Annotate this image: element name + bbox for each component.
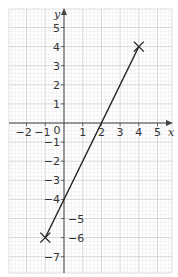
coordinate-graph: −2−11234554321−1−2−3−4−5−6−70xy [0,0,178,277]
x-tick-label: 3 [117,126,124,139]
y-tick-label: 5 [53,22,60,35]
y-tick-label: −2 [44,155,60,168]
y-tick-label: −3 [44,174,60,187]
y-tick-label: 1 [53,98,60,111]
axes [9,8,173,273]
grid [9,9,172,273]
y-tick-label: −1 [44,136,60,149]
y-axis-label: y [53,8,61,21]
origin-label: 0 [54,124,61,137]
x-axis-label: x [168,126,175,139]
x-tick-label: 1 [79,126,86,139]
y-tick-label: −5 [68,213,84,226]
grid-border [9,9,172,273]
y-tick-label: −7 [44,251,60,264]
y-tick-label: −4 [44,193,60,206]
x-tick-label: 5 [154,126,161,139]
y-tick-label: 2 [53,79,60,92]
y-tick-label: 3 [53,60,60,73]
y-tick-label: 4 [53,41,60,54]
y-tick-label: −6 [68,232,84,245]
x-tick-label: 4 [135,126,142,139]
x-tick-label: −2 [15,126,31,139]
